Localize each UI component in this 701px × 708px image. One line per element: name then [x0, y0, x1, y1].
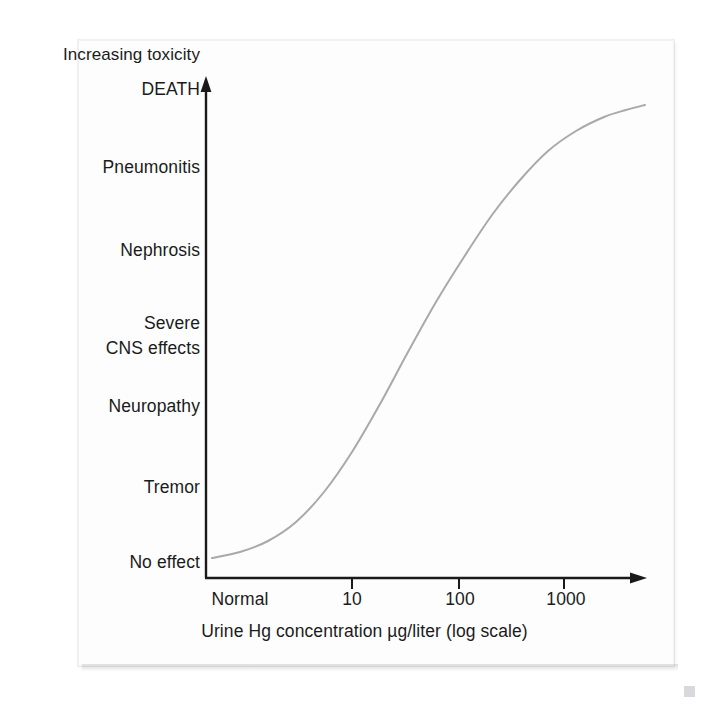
y-tick-label-pneumonitis: Pneumonitis: [103, 157, 200, 178]
x-axis-title-wrap: Urine Hg concentration µg/liter (log sca…: [0, 621, 701, 642]
x-axis-ticks: [352, 578, 564, 589]
dose-response-curve: [212, 105, 645, 558]
y-tick-label-severe-cns-effects: Severe CNS effects: [106, 311, 200, 362]
x-axis-title: Urine Hg concentration µg/liter (log sca…: [201, 621, 528, 642]
y-tick-label-cns-effects: CNS effects: [106, 336, 200, 361]
x-tick-label-10: 10: [342, 589, 362, 610]
figure-page: Increasing toxicity DEATH Pneumonitis Ne…: [0, 0, 701, 708]
x-axis: [205, 572, 647, 583]
y-axis: [201, 76, 212, 578]
y-tick-label-severe: Severe: [106, 311, 200, 336]
x-tick-label-normal: Normal: [212, 589, 269, 610]
x-tick-label-100: 100: [445, 589, 475, 610]
y-tick-label-death: DEATH: [141, 79, 200, 100]
y-tick-label-neuropathy: Neuropathy: [109, 396, 200, 417]
y-tick-label-tremor: Tremor: [144, 477, 200, 498]
y-axis-title: Increasing toxicity: [63, 45, 200, 65]
x-tick-label-1000: 1000: [546, 589, 585, 610]
y-tick-label-no-effect: No effect: [129, 552, 200, 573]
y-tick-label-nephrosis: Nephrosis: [120, 240, 200, 261]
